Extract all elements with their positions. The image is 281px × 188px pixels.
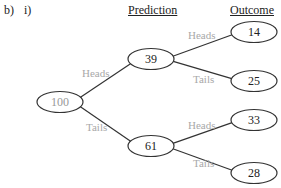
prediction-node-61-value: 61	[145, 139, 157, 153]
outcome-node-25-value: 25	[248, 74, 260, 88]
edge-label-tails: Tails	[193, 157, 214, 169]
edge-label-heads: Heads	[82, 67, 110, 79]
root-node-value: 100	[51, 95, 69, 109]
outcome-node-14-value: 14	[248, 25, 260, 39]
outcome-node-33-value: 33	[248, 113, 260, 127]
edge-label-tails: Tails	[193, 73, 214, 85]
edge-label-tails: Tails	[86, 121, 107, 133]
edge-label-heads: Heads	[188, 29, 216, 41]
prediction-node-39-value: 39	[145, 52, 157, 66]
probability-tree-diagram: HeadsTailsHeadsTailsHeadsTails1003961142…	[0, 0, 281, 188]
outcome-node-28-value: 28	[248, 166, 260, 180]
edge-label-heads: Heads	[188, 119, 216, 131]
